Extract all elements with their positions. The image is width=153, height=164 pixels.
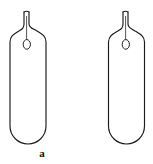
panel-caption-b: b [152, 146, 153, 160]
capillary-tube-a-drawing [0, 0, 76, 150]
bubble-b [122, 40, 129, 50]
figure-panel-a: a [0, 0, 76, 164]
figure-root: a b [0, 0, 153, 164]
capillary-tip-b [123, 11, 128, 12]
panel-caption-a: a [0, 146, 80, 160]
bubble-a [23, 40, 30, 50]
capillary-tip-a [24, 11, 29, 12]
vessel-outline-b [109, 12, 145, 144]
figure-panel-b: b [76, 0, 152, 164]
capillary-tube-b-drawing [76, 0, 152, 150]
vessel-outline-a [10, 12, 46, 144]
